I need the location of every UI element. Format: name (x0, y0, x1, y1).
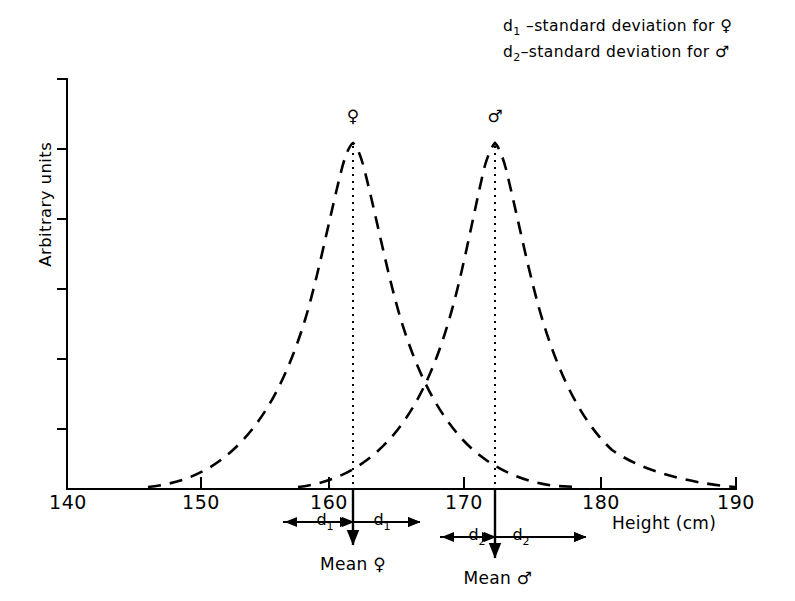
mean-label-male: Mean ♂ (464, 570, 533, 587)
dimension-annotations (0, 0, 795, 601)
d1-left-label: d1 (316, 512, 333, 531)
d2-right-label: d2 (512, 527, 529, 546)
d1-right-label: d1 (373, 512, 390, 531)
mean-label-female: Mean ♀ (320, 556, 386, 573)
chart-figure: d1 –standard deviation for ♀ d2–standard… (0, 0, 795, 601)
d2-left-label: d2 (468, 527, 485, 546)
